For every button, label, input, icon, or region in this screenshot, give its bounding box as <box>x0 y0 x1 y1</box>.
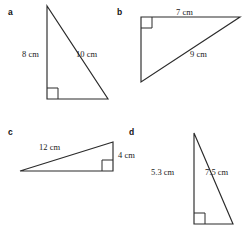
triangle-c <box>20 142 113 171</box>
side-label-b-top: 7 cm <box>176 8 193 17</box>
right-angle-mark-b <box>141 17 152 28</box>
side-label-d-hypotenuse: 7.5 cm <box>205 168 228 177</box>
triangles-canvas <box>0 0 247 235</box>
figure-sheet: a 8 cm 10 cm b 7 cm 9 cm c 12 cm 4 cm d … <box>0 0 247 235</box>
item-letter-d: d <box>129 128 134 137</box>
right-angle-mark-c <box>102 160 113 171</box>
item-letter-a: a <box>8 8 13 17</box>
side-label-d-vertical: 5.3 cm <box>151 168 174 177</box>
triangle-d <box>194 133 233 224</box>
side-label-a-vertical: 8 cm <box>22 50 39 59</box>
side-label-c-hypotenuse: 12 cm <box>39 143 60 152</box>
right-angle-mark-d <box>194 213 205 224</box>
side-label-a-hypotenuse: 10 cm <box>76 50 97 59</box>
item-letter-b: b <box>117 8 122 17</box>
right-angle-mark-a <box>47 88 58 99</box>
side-label-b-hypotenuse: 9 cm <box>190 50 207 59</box>
side-label-c-vertical: 4 cm <box>118 151 135 160</box>
item-letter-c: c <box>8 128 13 137</box>
